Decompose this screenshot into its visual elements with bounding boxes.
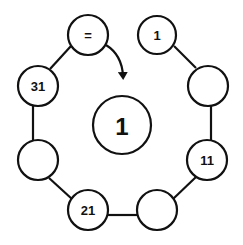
node-left-upper: 31 (18, 66, 58, 106)
node-label: 31 (31, 79, 45, 94)
node-right-upper (188, 66, 228, 106)
link-1-rightupper (174, 46, 196, 68)
node-top-left: = (68, 15, 108, 55)
link-left-21 (49, 178, 72, 199)
number-circle-diagram: = 1 11 21 31 1 (0, 0, 243, 245)
node-bottom-left: 21 (68, 190, 108, 230)
link-eq-31 (50, 46, 71, 69)
node-label: 11 (200, 153, 214, 168)
link-bottomright-11 (173, 177, 196, 199)
node-top-right: 1 (138, 16, 176, 54)
node-right-lower: 11 (187, 140, 227, 180)
node-label: = (84, 28, 92, 43)
node-bottom-right (137, 190, 177, 230)
center-node: 1 (93, 96, 151, 154)
center-label: 1 (115, 113, 128, 140)
node-left-lower (18, 140, 58, 180)
node-label: 1 (153, 28, 160, 43)
node-label: 21 (81, 203, 95, 218)
curved-arrow-icon (106, 45, 123, 76)
